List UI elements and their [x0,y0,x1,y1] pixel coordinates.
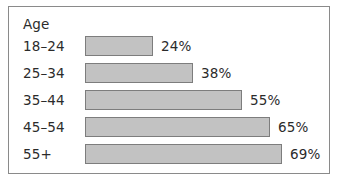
bar-value-label: 69% [290,143,320,165]
bar-category-label: 18–24 [23,35,87,57]
bar [85,36,153,56]
bar-row: 45–5465% [9,116,329,138]
bar [85,117,270,137]
bar [85,63,193,83]
bar-row: 18–2424% [9,35,329,57]
bar-category-label: 35–44 [23,89,87,111]
bar-rows-container: 18–2424%25–3438%35–4455%45–5465%55+69% [9,7,329,173]
bar-value-label: 24% [161,35,191,57]
bar-row: 55+69% [9,143,329,165]
bar [85,90,242,110]
bar-value-label: 55% [250,89,280,111]
bar-row: 35–4455% [9,89,329,111]
bar-chart-figure: Age 18–2424%25–3438%35–4455%45–5465%55+6… [0,0,344,186]
bar-value-label: 38% [201,62,231,84]
bar-category-label: 55+ [23,143,87,165]
bar-value-label: 65% [278,116,308,138]
bar-category-label: 25–34 [23,62,87,84]
chart-frame: Age 18–2424%25–3438%35–4455%45–5465%55+6… [8,6,330,174]
bar-row: 25–3438% [9,62,329,84]
bar-category-label: 45–54 [23,116,87,138]
bar [85,144,282,164]
